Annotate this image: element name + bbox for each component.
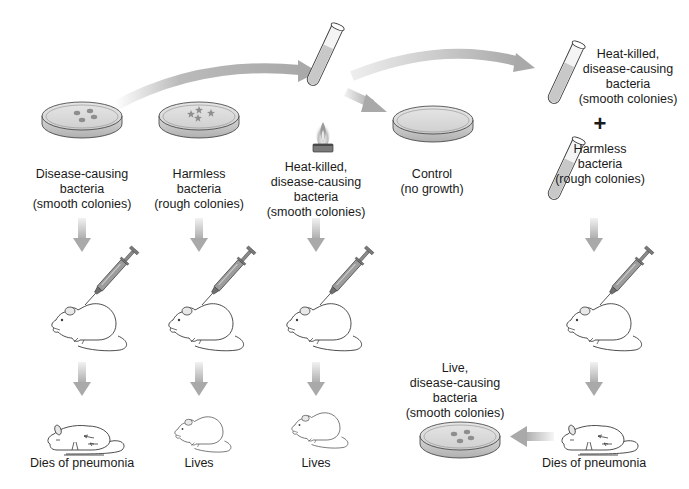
syringe-icon (596, 246, 654, 308)
outcome-lives: Lives (301, 456, 330, 471)
down-arrow-icon (585, 362, 603, 396)
griffith-experiment-diagram: Disease-causing bacteria (smooth colonie… (0, 0, 689, 489)
label-heat-killed-bacteria: Heat-killed, disease-causing bacteria (s… (267, 160, 366, 220)
live-mouse-icon (175, 417, 231, 452)
down-arrow-icon (190, 218, 208, 252)
bunsen-burner-icon (313, 120, 333, 152)
label-live-disease-causing-bacteria: Live, disease-causing bacteria (smooth c… (406, 361, 505, 421)
petri-dish-rough-colonies-icon (159, 102, 239, 138)
outcome-dies-of-pneumonia: Dies of pneumonia (30, 456, 134, 471)
down-arrow-icon (73, 362, 91, 396)
label-disease-causing-bacteria: Disease-causing bacteria (smooth colonie… (33, 167, 132, 212)
live-mouse-icon (292, 413, 348, 448)
dead-mouse-icon (48, 424, 124, 455)
syringe-icon (81, 246, 139, 308)
arrow-tube-to-control (346, 92, 387, 112)
curved-arrow-tube-to-mixture (352, 53, 535, 76)
mouse-injected-icon (52, 304, 127, 351)
down-arrow-icon (190, 362, 208, 396)
left-arrow-icon (510, 426, 554, 447)
result-petri-dish-smooth-colonies-icon (420, 422, 500, 458)
label-control: Control (no growth) (400, 167, 463, 197)
petri-dish-smooth-colonies-icon (42, 102, 122, 138)
mouse-injected-icon (169, 304, 244, 351)
down-arrow-icon (307, 362, 325, 396)
curved-arrow-dish-to-tube (115, 60, 318, 106)
syringe-icon (316, 246, 374, 308)
syringe-icon (198, 246, 256, 308)
mouse-injected-icon (567, 304, 642, 351)
down-arrow-icon (73, 218, 91, 252)
test-tube-icon (304, 21, 345, 87)
outcome-dies-of-pneumonia: Dies of pneumonia (542, 456, 646, 471)
label-mixture-harmless: Harmless bacteria (rough colonies) (555, 142, 645, 187)
down-arrow-icon (585, 218, 603, 252)
down-arrow-icon (307, 218, 325, 252)
label-harmless-bacteria: Harmless bacteria (rough colonies) (154, 167, 244, 212)
plus-sign: + (594, 113, 607, 135)
dead-mouse-icon (562, 424, 638, 455)
outcome-lives: Lives (184, 456, 213, 471)
empty-petri-dish-icon (393, 106, 473, 142)
label-mixture-heat-killed: Heat-killed, disease-causing bacteria (s… (579, 47, 678, 107)
mouse-injected-icon (287, 304, 362, 351)
